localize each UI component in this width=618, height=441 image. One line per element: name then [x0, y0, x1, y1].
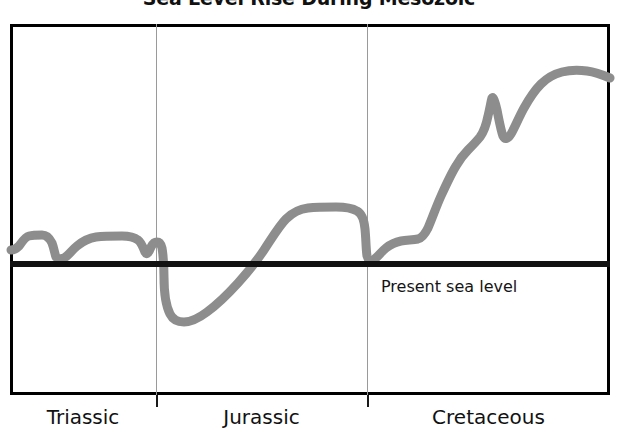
- period-divider-jurassic-cretaceous: [367, 24, 368, 395]
- present-sea-level-line: [10, 261, 610, 267]
- chart-title: Sea Level Rise During Mesozoic: [0, 0, 618, 9]
- period-label-triassic: Triassic: [10, 405, 156, 429]
- sea-level-chart-figure: Sea Level Rise During Mesozoic Present s…: [0, 0, 618, 441]
- period-label-jurassic: Jurassic: [156, 405, 367, 429]
- period-divider-triassic-jurassic: [156, 24, 157, 395]
- period-label-cretaceous: Cretaceous: [367, 405, 610, 429]
- plot-frame: [10, 24, 610, 395]
- present-sea-level-label: Present sea level: [381, 277, 517, 296]
